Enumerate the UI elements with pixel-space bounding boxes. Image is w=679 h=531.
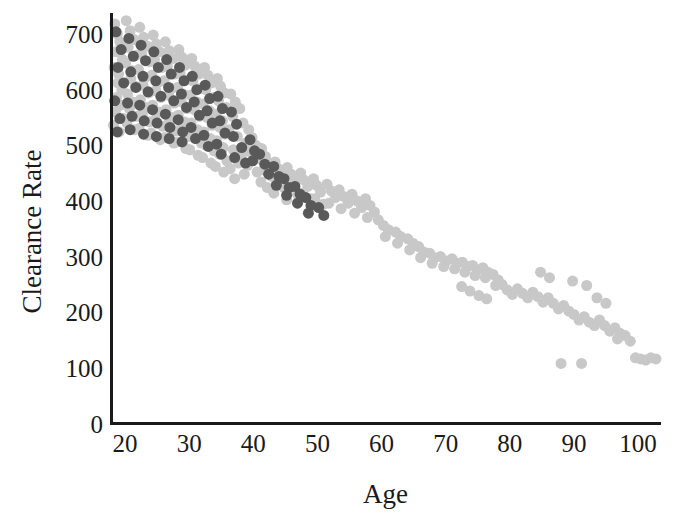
scatter-point — [112, 62, 123, 73]
x-axis-tick-label: 30 — [177, 431, 202, 456]
y-axis-title: Clearance Rate — [19, 112, 46, 352]
scatter-point — [212, 91, 223, 102]
y-axis-tick-label: 400 — [0, 188, 103, 213]
scatter-point — [123, 33, 134, 44]
scatter-point — [143, 86, 154, 97]
scatter-point — [229, 152, 240, 163]
y-axis-tick-label: 100 — [0, 355, 103, 380]
scatter-point — [226, 106, 237, 117]
scatter-point — [173, 114, 184, 125]
scatter-point — [470, 270, 481, 281]
x-axis-tick-label: 90 — [561, 431, 586, 456]
scatter-point — [225, 163, 236, 174]
scatter-point — [268, 161, 279, 172]
x-axis-tick-label: 70 — [433, 431, 458, 456]
scatter-point — [147, 104, 158, 115]
scatter-point — [216, 149, 227, 160]
scatter-point — [576, 358, 587, 369]
scatter-point — [556, 358, 567, 369]
scatter-point — [122, 98, 133, 109]
scatter-point — [186, 122, 197, 133]
scatter-point — [164, 133, 175, 144]
x-axis-tick-label: 50 — [305, 431, 330, 456]
scatter-point — [153, 62, 164, 73]
scatter-point — [231, 119, 242, 130]
scatter-point — [202, 105, 213, 116]
x-axis-tick-label: 40 — [241, 431, 266, 456]
x-axis-tick-label: 20 — [113, 431, 138, 456]
scatter-point — [625, 336, 636, 347]
scatter-point — [245, 134, 256, 145]
scatter-point — [155, 91, 166, 102]
y-axis-tick-label: 600 — [0, 77, 103, 102]
y-axis-tick-label: 200 — [0, 300, 103, 325]
scatter-point — [161, 54, 172, 65]
scatter-point — [281, 190, 292, 201]
scatter-point — [114, 113, 125, 124]
scatter-point — [303, 208, 314, 219]
y-axis-tick-label: 300 — [0, 244, 103, 269]
scatter-point — [198, 130, 209, 141]
scatter-point — [164, 122, 175, 133]
scatter-point — [236, 142, 247, 153]
y-axis-line — [110, 13, 113, 425]
scatter-point — [127, 111, 138, 122]
y-axis-tick-label: 700 — [0, 22, 103, 47]
scatter-point — [228, 131, 239, 142]
scatter-point — [151, 131, 162, 142]
scatter-point — [189, 96, 200, 107]
y-axis-tick-label: 0 — [0, 411, 103, 436]
scatter-point — [392, 238, 403, 249]
scatter-point — [177, 136, 188, 147]
scatter-point — [148, 46, 159, 57]
x-axis-title: Age — [110, 481, 661, 508]
scatter-point — [112, 126, 123, 137]
scatter-point — [136, 40, 147, 51]
scatter-point — [140, 55, 151, 66]
scatter-point — [362, 212, 373, 223]
scatter-point — [160, 109, 171, 120]
scatter-point — [176, 89, 187, 100]
scatter-point — [137, 71, 148, 82]
scatter-point — [567, 276, 578, 287]
scatter-point — [318, 210, 329, 221]
scatter-point — [125, 66, 136, 77]
x-axis-tick-label: 80 — [497, 431, 522, 456]
scatter-point — [150, 75, 161, 86]
scatter-point — [214, 115, 225, 126]
scatter-point — [380, 231, 391, 242]
scatter-point — [139, 115, 150, 126]
scatter-point — [650, 353, 661, 364]
scatter-point — [121, 15, 132, 26]
scatter-point — [187, 71, 198, 82]
scatter-point — [116, 44, 127, 55]
scatter-point — [581, 280, 592, 291]
scatter-point — [481, 293, 492, 304]
x-axis-tick-label: 60 — [369, 431, 394, 456]
x-axis-line — [110, 422, 661, 425]
scatter-point — [591, 292, 602, 303]
scatter-point — [125, 124, 136, 135]
scatter-point — [174, 62, 185, 73]
scatter-plot-figure: 7006005004003002001000 20304050607080901… — [0, 0, 679, 531]
scatter-point — [118, 77, 129, 88]
scatter-point — [130, 82, 141, 93]
scatter-point — [134, 100, 145, 111]
x-axis-tick-label: 100 — [619, 431, 657, 456]
y-axis-tick-label: 500 — [0, 133, 103, 158]
scatter-point — [336, 203, 347, 214]
scatter-point — [535, 267, 546, 278]
scatter-point — [128, 51, 139, 62]
scatter-point — [254, 149, 265, 160]
scatter-point — [323, 198, 334, 209]
scatter-point — [200, 80, 211, 91]
scatter-series-light-gray-points — [108, 15, 661, 369]
scatter-point — [349, 208, 360, 219]
scatter-point — [134, 22, 145, 33]
scatter-point — [152, 118, 163, 129]
scatter-point — [163, 82, 174, 93]
scatter-point — [438, 261, 449, 272]
scatter-point — [138, 129, 149, 140]
scatter-point — [211, 139, 222, 150]
scatter-point — [229, 173, 240, 184]
